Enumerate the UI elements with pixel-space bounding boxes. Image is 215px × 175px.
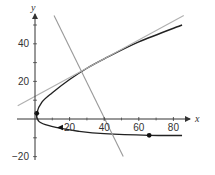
- y-tick-label: 40: [18, 38, 30, 49]
- curve-point-marker: [147, 133, 152, 138]
- y-tick-label: −20: [12, 151, 29, 162]
- plot-area: [18, 16, 184, 157]
- parametric-plot: 20406080 −202040 x y: [0, 0, 215, 175]
- y-tick-label: 20: [18, 76, 30, 87]
- x-tick-label: 40: [99, 122, 111, 133]
- x-axis-label: x: [194, 113, 200, 124]
- tangent-line-line: [18, 16, 184, 106]
- y-axis-label: y: [30, 2, 36, 13]
- x-tick-label: 20: [64, 122, 76, 133]
- direction-arrow-icon: [57, 125, 63, 131]
- y-ticks: −202040: [12, 25, 37, 162]
- x-tick-label: 60: [133, 122, 145, 133]
- normal-line-line: [54, 16, 123, 157]
- x-tick-label: 80: [168, 122, 180, 133]
